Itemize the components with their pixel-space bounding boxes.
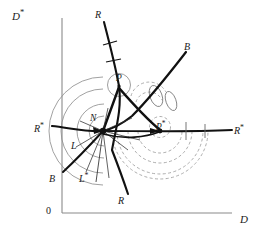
curve-label-b-top: B [184,42,190,52]
curve-label-r-top: R [95,10,101,20]
ray-n-4 [103,131,109,178]
node-dot-p [117,84,120,87]
dashed-arc-4 [138,131,182,153]
curve-label-r-star-right: R* [234,124,244,136]
curve-label-r-bottom: R [118,196,124,206]
segment-p-to-p-star [119,88,160,130]
node-label-p-star: P* [156,120,166,133]
tick-ellipse-b2 [163,90,179,112]
curve-r-star-right-branch [103,130,232,131]
node-dot-n [100,128,106,134]
x-axis-label: D [240,214,248,225]
curve-label-b-bottom: B [49,174,55,184]
diagram-canvas [0,0,261,235]
node-label-p: P [116,74,122,84]
dashed-arc-1 [112,131,208,179]
node-label-n: N [90,114,96,124]
origin-label: 0 [46,206,51,216]
phase-diagram-figure: D* D 0 N P P* R R R* R* B B L L* [0,0,261,235]
curve-label-l: L [71,141,77,151]
curve-b-upper [103,52,186,131]
dashed-arc-3 [128,131,192,163]
curve-b-lower [63,131,103,172]
y-axis-label: D* [12,8,24,22]
curve-label-r-star-left: R* [34,122,44,134]
curve-label-l-star: L* [79,172,88,184]
